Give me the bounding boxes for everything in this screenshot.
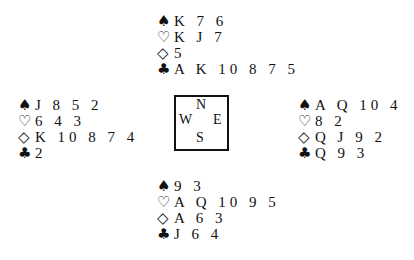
- heart-icon: ♡: [298, 113, 315, 129]
- spade-icon: ♠: [157, 178, 174, 194]
- north-hand: ♠K 7 6 ♡K J 7 ◇5 ♣A K 10 8 7 5: [157, 13, 299, 77]
- east-diamonds: ◇Q J 9 2: [298, 129, 402, 145]
- diamond-icon: ◇: [18, 129, 35, 145]
- club-icon: ♣: [298, 145, 315, 161]
- heart-icon: ♡: [157, 194, 174, 210]
- diamond-icon: ◇: [157, 210, 174, 226]
- east-hearts: ♡8 2: [298, 113, 402, 129]
- diamond-icon: ◇: [157, 45, 174, 61]
- north-clubs: ♣A K 10 8 7 5: [157, 61, 299, 77]
- west-clubs: ♣2: [18, 145, 138, 161]
- west-hearts: ♡6 4 3: [18, 113, 138, 129]
- north-diamonds: ◇5: [157, 45, 299, 61]
- east-spades: ♠A Q 10 4: [298, 97, 402, 113]
- diamond-icon: ◇: [298, 129, 315, 145]
- compass-south: S: [196, 130, 204, 146]
- heart-icon: ♡: [157, 29, 174, 45]
- west-hand: ♠J 8 5 2 ♡6 4 3 ◇K 10 8 7 4 ♣2: [18, 97, 138, 161]
- club-icon: ♣: [157, 226, 174, 242]
- club-icon: ♣: [157, 61, 174, 77]
- south-hand: ♠9 3 ♡A Q 10 9 5 ◇A 6 3 ♣J 6 4: [157, 178, 280, 242]
- west-spades: ♠J 8 5 2: [18, 97, 138, 113]
- compass-north: N: [196, 97, 206, 113]
- spade-icon: ♠: [157, 13, 174, 29]
- spade-icon: ♠: [298, 97, 315, 113]
- club-icon: ♣: [18, 145, 35, 161]
- north-spades: ♠K 7 6: [157, 13, 299, 29]
- south-spades: ♠9 3: [157, 178, 280, 194]
- west-diamonds: ◇K 10 8 7 4: [18, 129, 138, 145]
- compass-box: N W E S: [174, 95, 229, 151]
- north-hearts: ♡K J 7: [157, 29, 299, 45]
- spade-icon: ♠: [18, 97, 35, 113]
- south-diamonds: ◇A 6 3: [157, 210, 280, 226]
- south-clubs: ♣J 6 4: [157, 226, 280, 242]
- compass-west: W: [179, 112, 192, 128]
- compass-east: E: [213, 112, 222, 128]
- heart-icon: ♡: [18, 113, 35, 129]
- east-hand: ♠A Q 10 4 ♡8 2 ◇Q J 9 2 ♣Q 9 3: [298, 97, 402, 161]
- east-clubs: ♣Q 9 3: [298, 145, 402, 161]
- south-hearts: ♡A Q 10 9 5: [157, 194, 280, 210]
